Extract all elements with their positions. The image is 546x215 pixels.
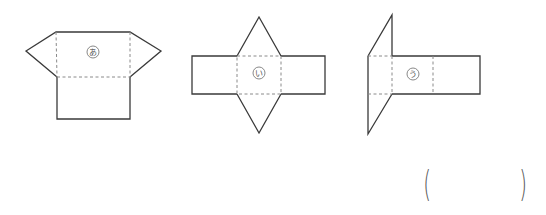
- figure-i: い: [192, 17, 325, 133]
- figure-a: あ: [26, 32, 161, 119]
- answer-open-paren: (: [423, 160, 431, 208]
- answer-close-paren: ): [519, 160, 527, 208]
- figure-label-a: あ: [89, 48, 97, 57]
- answer-box[interactable]: ( ): [420, 160, 530, 208]
- worksheet-page: あ い: [0, 0, 546, 215]
- figure-label-i: い: [255, 69, 263, 78]
- figure-label-u: う: [409, 70, 417, 79]
- figure-u: う: [368, 15, 480, 134]
